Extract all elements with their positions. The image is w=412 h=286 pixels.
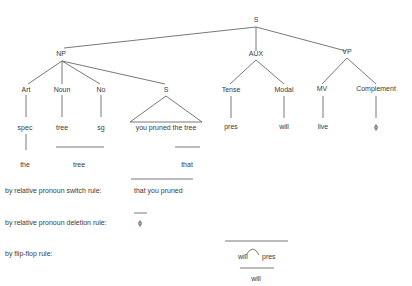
node-art: Art xyxy=(22,86,31,94)
node-tense: Tense xyxy=(222,86,241,94)
rule-deletion-result: ϕ xyxy=(138,219,142,227)
rule-flipflop-will: will xyxy=(238,253,248,261)
tree-branches xyxy=(0,0,412,286)
terminal-spec: spec xyxy=(18,124,33,132)
rule-flipflop-final: will xyxy=(251,275,261,283)
terminal-sg: sg xyxy=(97,124,104,132)
terminal-live: live xyxy=(318,123,329,131)
node-aux: AUX xyxy=(249,50,263,58)
node-np: NP xyxy=(56,50,66,58)
terminal-will: will xyxy=(279,123,289,131)
node-modal: Modal xyxy=(274,86,293,94)
rule-flipflop-pres: pres xyxy=(262,253,276,261)
rule-flipflop-label: by flip-flop rule: xyxy=(5,250,52,258)
derived-the: the xyxy=(20,161,30,169)
node-s-embedded: S xyxy=(164,86,169,94)
derived-that: that xyxy=(181,161,193,169)
terminal-embedded-clause: you pruned the tree xyxy=(136,124,197,132)
rule-switch-result: that you pruned xyxy=(134,187,183,195)
node-complement: Complement xyxy=(356,85,396,93)
terminal-phi: ϕ xyxy=(374,123,378,131)
terminal-tree: tree xyxy=(56,124,68,132)
derived-tree: tree xyxy=(73,161,85,169)
node-vp: VP xyxy=(342,48,351,56)
rule-switch-label: by relative pronoun switch rule: xyxy=(5,187,102,195)
terminal-pres: pres xyxy=(224,123,238,131)
node-s-root: S xyxy=(254,16,259,24)
node-no: No xyxy=(97,86,106,94)
rule-deletion-label: by relative pronoun deletion rule: xyxy=(5,219,107,227)
node-mv: MV xyxy=(317,85,328,93)
node-noun: Noun xyxy=(54,86,71,94)
